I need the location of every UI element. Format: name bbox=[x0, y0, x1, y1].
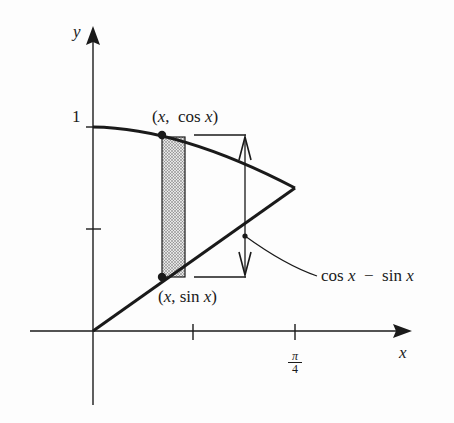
lower-point-marker bbox=[158, 273, 166, 281]
upper-point-label: (x, cos x) bbox=[152, 107, 218, 127]
y-tick-label-1: 1 bbox=[72, 107, 81, 127]
cos-curve bbox=[93, 127, 295, 188]
lower-point-label: (x, sin x) bbox=[158, 287, 217, 307]
upper-point-label-text: (x, cos x) bbox=[152, 107, 218, 126]
diagram-svg bbox=[0, 0, 454, 423]
leader-line bbox=[245, 236, 317, 276]
x-axis-label: x bbox=[399, 343, 407, 363]
fraction-denominator: 4 bbox=[288, 363, 302, 375]
lower-point-label-text: (x, sin x) bbox=[158, 287, 217, 306]
difference-label: cos x − sin x bbox=[321, 266, 414, 286]
shaded-strip bbox=[162, 137, 185, 277]
diagram-canvas: y x 1 π 4 (x, cos x) (x, sin x) cos x − … bbox=[0, 0, 454, 423]
upper-point-marker bbox=[158, 131, 166, 139]
x-tick-label-pi-over-4: π 4 bbox=[288, 350, 302, 375]
y-axis-label: y bbox=[73, 22, 81, 42]
sin-curve bbox=[93, 188, 295, 331]
